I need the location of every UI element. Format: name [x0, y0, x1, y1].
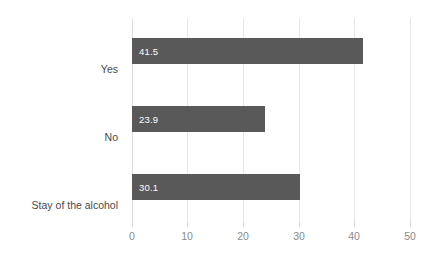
bar-value-no: 23.9	[139, 114, 158, 125]
tick-label-40: 40	[334, 230, 374, 242]
tick-label-20: 20	[223, 230, 263, 242]
plot-area: 41.5 23.9 30.1	[132, 18, 411, 222]
tick-label-30: 30	[279, 230, 319, 242]
tick-label-10: 10	[167, 230, 207, 242]
x-axis: 0 10 20 30 40 50	[132, 222, 411, 252]
category-label-no: No	[0, 131, 118, 143]
tick-mark-0	[132, 222, 133, 227]
category-label-yes: Yes	[0, 63, 118, 75]
tick-mark-10	[187, 222, 188, 227]
bar-chart: Yes No Stay of the alcohol 41.5 23.9 30.…	[0, 0, 429, 258]
y-axis-category-labels: Yes No Stay of the alcohol	[0, 18, 126, 222]
chart-title	[0, 0, 429, 3]
tick-label-0: 0	[112, 230, 152, 242]
tick-label-50: 50	[390, 230, 429, 242]
bar-yes[interactable]: 41.5	[132, 38, 363, 64]
bar-no[interactable]: 23.9	[132, 106, 265, 132]
gridline-50	[410, 18, 411, 222]
bar-stay-of-the-alcohol[interactable]: 30.1	[132, 174, 300, 200]
category-label-stay-of-the-alcohol: Stay of the alcohol	[0, 199, 118, 211]
tick-mark-20	[243, 222, 244, 227]
bar-value-yes: 41.5	[139, 46, 158, 57]
bar-value-stay-of-the-alcohol: 30.1	[139, 182, 158, 193]
tick-mark-30	[299, 222, 300, 227]
tick-mark-40	[354, 222, 355, 227]
tick-mark-50	[410, 222, 411, 227]
